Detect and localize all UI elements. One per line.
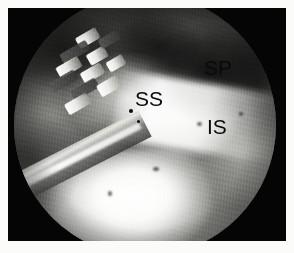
anatomical-label-ss: SS <box>135 88 163 109</box>
arthroscope-field-of-view <box>14 8 276 241</box>
figure-root: SP SS IS <box>0 0 294 253</box>
anatomical-label-sp: SP <box>204 57 232 78</box>
field-vignette <box>14 8 276 241</box>
photo-frame: SP SS IS <box>8 8 286 241</box>
anatomical-label-is: IS <box>207 116 227 137</box>
